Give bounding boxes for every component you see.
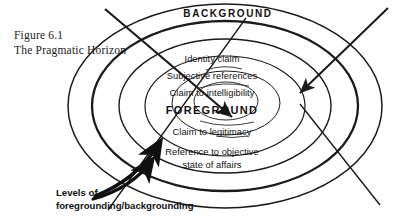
- foreground-label: FOREGROUND: [0, 104, 398, 116]
- levels-annotation-line-1: Levels of: [56, 186, 194, 199]
- levels-annotation-line-2: foregrounding/backgrounding: [56, 199, 194, 212]
- figure-page: Figure 6.1 The Pragmatic Horizon BACKGRO…: [0, 0, 398, 222]
- ring-label-reference-objective: Reference to objective: [0, 147, 398, 157]
- ring-label-state-of-affairs: state of affairs: [0, 160, 398, 170]
- background-label: BACKGROUND: [0, 8, 398, 19]
- ring-label-subjective-references: Subjective references: [0, 71, 398, 81]
- caption-line-1: Figure 6.1: [14, 28, 126, 43]
- ring-label-claim-to-legitimacy: Claim to legitimacy: [0, 127, 398, 137]
- tick-reference: [200, 121, 254, 125]
- levels-annotation: Levels of foregrounding/backgrounding: [56, 186, 194, 212]
- ring-label-claim-to-intelligibility: Claim to intelligibility: [0, 88, 398, 98]
- ring-label-identity-claim: Identity claim: [0, 54, 398, 64]
